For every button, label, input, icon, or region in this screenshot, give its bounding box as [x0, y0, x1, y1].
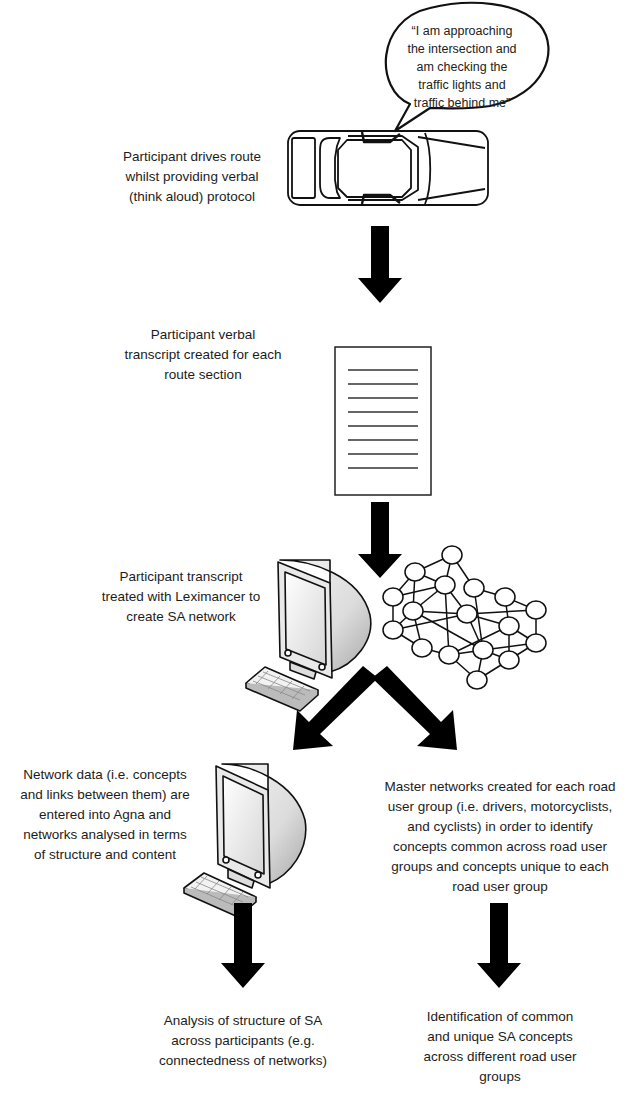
- step-agna-label: Network data (i.e. concepts and links be…: [10, 765, 200, 865]
- step-drive-label: Participant drives route whilst providin…: [102, 147, 282, 207]
- arrow-down-icon: [477, 903, 521, 988]
- car-icon: [288, 131, 488, 205]
- step-structure-label: Analysis of structure of SA across parti…: [148, 1011, 338, 1071]
- step-leximancer-label: Participant transcript treated with Lexi…: [86, 567, 276, 627]
- step-concepts-label: Identification of common and unique SA c…: [402, 1007, 598, 1087]
- step-master-label: Master networks created for each road us…: [368, 777, 632, 897]
- arrow-down-icon: [358, 502, 402, 578]
- speech-bubble-text: “I am approaching the intersection and a…: [400, 22, 524, 112]
- diagram-canvas: [0, 0, 634, 1097]
- arrow-down-left-icon: [293, 666, 378, 750]
- computer-icon: [184, 764, 306, 917]
- arrow-down-icon: [358, 226, 402, 303]
- step-transcript-label: Participant verbal transcript created fo…: [108, 325, 298, 385]
- arrow-down-right-icon: [372, 666, 457, 750]
- arrow-down-icon: [221, 903, 265, 988]
- document-icon: [335, 347, 431, 495]
- network-graph-icon: [383, 546, 546, 689]
